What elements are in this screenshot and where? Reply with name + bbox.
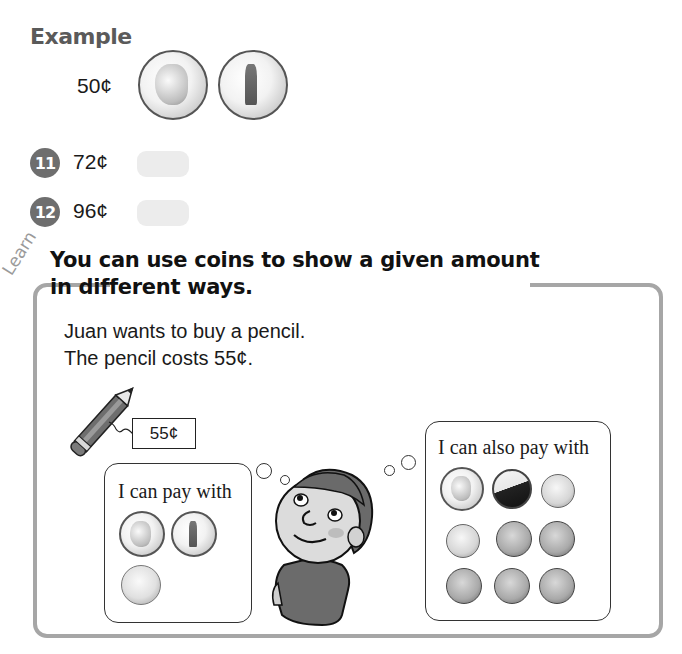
penny-coin-icon bbox=[539, 521, 575, 557]
learn-label: Learn bbox=[0, 228, 40, 279]
tag-string-icon bbox=[108, 420, 134, 440]
answer-input-12[interactable] bbox=[137, 200, 189, 226]
headline-line-2: in different ways. bbox=[50, 274, 539, 301]
nickel-coin-icon bbox=[492, 469, 532, 509]
bubble-left-text: I can pay with bbox=[118, 480, 232, 503]
quarter-coin-icon bbox=[119, 511, 165, 557]
dime-coin-icon bbox=[446, 524, 480, 558]
example-title: Example bbox=[30, 24, 132, 49]
boy-character-icon bbox=[264, 465, 384, 630]
penny-coin-icon bbox=[496, 521, 532, 557]
penny-coin-icon bbox=[539, 568, 575, 604]
exercise-number-badge: 11 bbox=[30, 148, 60, 178]
learn-body: Juan wants to buy a pencil. The pencil c… bbox=[64, 318, 305, 372]
exercise-number-badge: 12 bbox=[30, 197, 60, 227]
penny-coin-icon bbox=[494, 568, 530, 604]
quarter-coin-icon bbox=[440, 467, 484, 511]
bubble-right-text: I can also pay with bbox=[438, 436, 589, 459]
penny-coin-icon bbox=[446, 568, 482, 604]
nickel-coin-icon bbox=[121, 565, 161, 605]
body-line-1: Juan wants to buy a pencil. bbox=[64, 318, 305, 345]
answer-input-11[interactable] bbox=[137, 151, 189, 177]
learn-headline: You can use coins to show a given amount… bbox=[50, 247, 539, 301]
headline-line-1: You can use coins to show a given amount bbox=[50, 247, 539, 274]
example-amount: 50¢ bbox=[77, 74, 112, 98]
dime-coin-icon bbox=[541, 474, 575, 508]
thought-dot-icon bbox=[384, 465, 395, 476]
exercise-amount: 72¢ bbox=[73, 150, 108, 174]
quarter-coin-icon bbox=[138, 50, 208, 120]
ny-quarter-coin-icon bbox=[218, 50, 288, 120]
body-line-2: The pencil costs 55¢. bbox=[64, 345, 305, 372]
ny-quarter-coin-icon bbox=[171, 511, 217, 557]
thought-dot-icon bbox=[401, 455, 416, 470]
price-tag: 55¢ bbox=[132, 418, 196, 449]
exercise-amount: 96¢ bbox=[73, 199, 108, 223]
